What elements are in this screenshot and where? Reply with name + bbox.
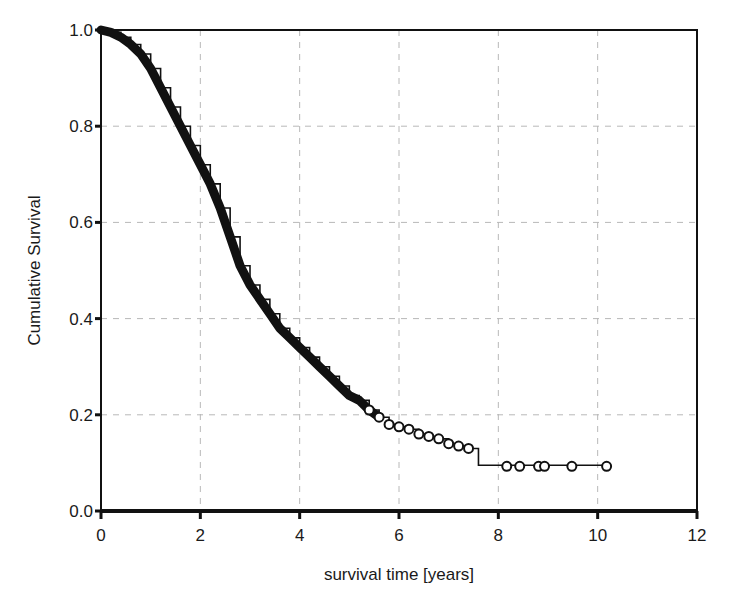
y-tick-label: 1.0 bbox=[69, 21, 93, 40]
x-tick-label: 10 bbox=[588, 526, 607, 545]
x-tick-label: 8 bbox=[494, 526, 503, 545]
censored-mark bbox=[444, 439, 453, 448]
censored-mark bbox=[567, 462, 576, 471]
censored-mark bbox=[464, 444, 473, 453]
y-axis-ticks: 0.00.20.40.60.81.0 bbox=[69, 21, 101, 521]
x-tick-label: 4 bbox=[295, 526, 304, 545]
censored-marker-band bbox=[101, 30, 379, 417]
censored-mark bbox=[502, 462, 511, 471]
x-axis-ticks: 024681012 bbox=[96, 511, 706, 545]
y-tick-label: 0.0 bbox=[69, 502, 93, 521]
censored-mark bbox=[602, 462, 611, 471]
censored-mark bbox=[375, 413, 384, 422]
grid-lines bbox=[101, 30, 697, 511]
y-tick-label: 0.8 bbox=[69, 117, 93, 136]
x-axis-title: survival time [years] bbox=[324, 565, 474, 584]
censored-mark bbox=[365, 405, 374, 414]
survival-curve bbox=[101, 30, 608, 465]
censored-mark bbox=[515, 462, 524, 471]
censored-mark bbox=[434, 434, 443, 443]
y-tick-label: 0.4 bbox=[69, 310, 93, 329]
censored-mark bbox=[385, 420, 394, 429]
x-tick-label: 6 bbox=[394, 526, 403, 545]
x-tick-label: 0 bbox=[96, 526, 105, 545]
censored-mark bbox=[424, 432, 433, 441]
y-tick-label: 0.2 bbox=[69, 406, 93, 425]
censored-mark bbox=[454, 442, 463, 451]
censored-mark bbox=[395, 422, 404, 431]
y-tick-label: 0.6 bbox=[69, 213, 93, 232]
x-tick-label: 2 bbox=[196, 526, 205, 545]
x-tick-label: 12 bbox=[688, 526, 707, 545]
censored-mark bbox=[404, 425, 413, 434]
y-axis-title: Cumulative Survival bbox=[25, 195, 44, 345]
survival-chart: 024681012 0.00.20.40.60.81.0 survival ti… bbox=[0, 0, 733, 604]
censored-mark bbox=[540, 462, 549, 471]
censored-mark bbox=[414, 430, 423, 439]
